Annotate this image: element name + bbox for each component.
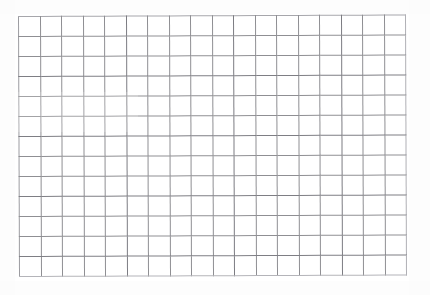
grid-cell[interactable] [256, 216, 278, 236]
grid-cell[interactable] [62, 196, 84, 216]
grid-cell[interactable] [148, 76, 170, 96]
grid-cell[interactable] [105, 256, 127, 276]
grid-cell[interactable] [105, 16, 127, 36]
grid-cell[interactable] [234, 236, 256, 256]
grid-cell[interactable] [170, 176, 192, 196]
grid-cell[interactable] [62, 216, 84, 236]
grid-cell[interactable] [341, 15, 363, 35]
grid-cell[interactable] [148, 116, 170, 136]
grid-cell[interactable] [40, 76, 62, 96]
grid-cell[interactable] [342, 155, 364, 175]
grid-cell[interactable] [385, 175, 407, 195]
grid-cell[interactable] [191, 196, 213, 216]
grid-cell[interactable] [277, 175, 299, 195]
grid-cell[interactable] [320, 135, 342, 155]
grid-cell[interactable] [105, 216, 127, 236]
grid-cell[interactable] [234, 96, 256, 116]
grid-cell[interactable] [213, 236, 235, 256]
grid-cell[interactable] [19, 76, 41, 96]
grid-cell[interactable] [148, 216, 170, 236]
grid-cell[interactable] [255, 16, 277, 36]
grid-cell[interactable] [169, 76, 191, 96]
grid-cell[interactable] [148, 36, 170, 56]
grid-cell[interactable] [62, 16, 84, 36]
grid-cell[interactable] [234, 36, 256, 56]
grid-cell[interactable] [148, 16, 170, 36]
grid-cell[interactable] [384, 35, 406, 55]
grid-cell[interactable] [105, 36, 127, 56]
grid-cell[interactable] [298, 135, 320, 155]
grid-cell[interactable] [83, 136, 105, 156]
grid-cell[interactable] [255, 96, 277, 116]
grid-cell[interactable] [384, 55, 406, 75]
grid-cell[interactable] [341, 55, 363, 75]
grid-cell[interactable] [40, 36, 62, 56]
grid-cell[interactable] [299, 235, 321, 255]
grid-cell[interactable] [320, 175, 342, 195]
grid-cell[interactable] [84, 236, 106, 256]
grid-cell[interactable] [19, 36, 41, 56]
grid-cell[interactable] [19, 216, 41, 236]
grid-cell[interactable] [299, 215, 321, 235]
grid-cell[interactable] [191, 16, 213, 36]
grid-cell[interactable] [299, 175, 321, 195]
grid-cell[interactable] [19, 136, 41, 156]
grid-cell[interactable] [105, 136, 127, 156]
grid-cell[interactable] [170, 236, 192, 256]
grid-cell[interactable] [320, 155, 342, 175]
grid-cell[interactable] [213, 156, 235, 176]
grid-cell[interactable] [320, 55, 342, 75]
grid-cell[interactable] [105, 116, 127, 136]
grid-cell[interactable] [363, 135, 385, 155]
grid-cell[interactable] [19, 176, 41, 196]
grid-cell[interactable] [234, 136, 256, 156]
grid-cell[interactable] [320, 115, 342, 135]
grid-cell[interactable] [127, 216, 149, 236]
grid-cell[interactable] [255, 36, 277, 56]
grid-cell[interactable] [84, 256, 106, 276]
grid-cell[interactable] [256, 196, 278, 216]
grid-cell[interactable] [277, 195, 299, 215]
grid-cell[interactable] [363, 235, 385, 255]
grid-cell[interactable] [320, 215, 342, 235]
blank-grid-table[interactable] [18, 15, 407, 277]
grid-cell[interactable] [83, 36, 105, 56]
grid-cell[interactable] [105, 96, 127, 116]
grid-cell[interactable] [127, 176, 149, 196]
grid-cell[interactable] [148, 56, 170, 76]
grid-cell[interactable] [298, 95, 320, 115]
grid-cell[interactable] [384, 15, 406, 35]
grid-cell[interactable] [62, 156, 84, 176]
grid-cell[interactable] [127, 256, 149, 276]
grid-cell[interactable] [212, 16, 234, 36]
grid-cell[interactable] [255, 136, 277, 156]
grid-cell[interactable] [385, 235, 407, 255]
grid-cell[interactable] [105, 76, 127, 96]
grid-cell[interactable] [299, 195, 321, 215]
grid-cell[interactable] [341, 95, 363, 115]
grid-cell[interactable] [127, 156, 149, 176]
grid-cell[interactable] [213, 256, 235, 276]
grid-cell[interactable] [105, 236, 127, 256]
grid-cell[interactable] [385, 215, 407, 235]
grid-cell[interactable] [341, 75, 363, 95]
grid-cell[interactable] [256, 176, 278, 196]
grid-cell[interactable] [19, 256, 41, 276]
grid-cell[interactable] [384, 95, 406, 115]
grid-cell[interactable] [298, 55, 320, 75]
grid-cell[interactable] [277, 35, 299, 55]
grid-cell[interactable] [40, 116, 62, 136]
grid-cell[interactable] [277, 135, 299, 155]
grid-cell[interactable] [277, 115, 299, 135]
grid-cell[interactable] [105, 56, 127, 76]
grid-cell[interactable] [320, 195, 342, 215]
grid-cell[interactable] [191, 136, 213, 156]
grid-cell[interactable] [234, 116, 256, 136]
grid-cell[interactable] [83, 16, 105, 36]
grid-cell[interactable] [320, 75, 342, 95]
grid-cell[interactable] [277, 155, 299, 175]
grid-cell[interactable] [277, 215, 299, 235]
grid-cell[interactable] [212, 116, 234, 136]
grid-cell[interactable] [126, 36, 148, 56]
grid-cell[interactable] [169, 16, 191, 36]
